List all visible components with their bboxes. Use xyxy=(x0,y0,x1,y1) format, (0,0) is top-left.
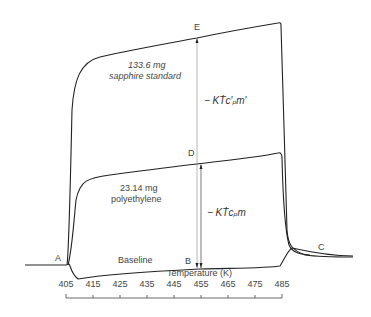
axis-tick-label: 405 xyxy=(58,279,73,289)
sapphire-mass-label: 133.6 mg xyxy=(128,60,166,70)
polyethylene-name-label: polyethylene xyxy=(111,194,162,204)
axis-tick-label: 415 xyxy=(85,279,100,289)
point-a-label: A xyxy=(55,253,61,263)
point-c-label: C xyxy=(318,242,325,252)
axis-tick-label: 455 xyxy=(193,279,208,289)
axis-tick-label: 425 xyxy=(112,279,127,289)
point-e-label: E xyxy=(194,22,200,32)
sapphire-name-label: sapphire standard xyxy=(109,71,181,81)
polyethylene-curve xyxy=(68,153,310,265)
axis-tick-label: 435 xyxy=(139,279,154,289)
point-b-label: B xyxy=(185,256,191,266)
sapphire-formula: − KṪc′ₚm′ xyxy=(204,95,246,106)
point-d-label: D xyxy=(188,148,195,158)
baseline-label: Baseline xyxy=(118,255,153,265)
polyethylene-mass-label: 23.14 mg xyxy=(120,183,158,193)
axis-title: Temperature (K) xyxy=(167,268,232,278)
axis-ticks xyxy=(66,294,282,298)
sapphire-curve xyxy=(67,23,353,265)
axis-tick-label: 475 xyxy=(247,279,262,289)
polyethylene-formula: − KṪcₚm xyxy=(207,207,246,218)
axis-tick-label: 445 xyxy=(166,279,181,289)
axis-tick-label: 465 xyxy=(220,279,235,289)
axis-tick-label: 485 xyxy=(274,279,289,289)
